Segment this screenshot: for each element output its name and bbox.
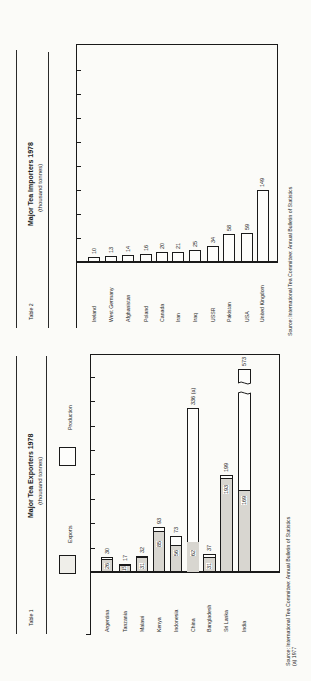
value-label: 16 <box>143 245 149 251</box>
export-value-label: 31 <box>206 563 212 569</box>
export-value-label: 62 <box>190 550 196 556</box>
export-value-label: 31 <box>139 563 145 569</box>
table1-source: Source: International Tea Committee: Ann… <box>285 517 291 666</box>
bar-afghanistan <box>122 255 134 262</box>
category-label: Bangladesh <box>206 605 212 632</box>
table2-header-rule-right <box>48 52 49 328</box>
table2-title: Major Tea Importers 1978 <box>27 142 34 226</box>
table2-header-rule-left <box>16 50 17 328</box>
value-label: 21 <box>175 243 181 249</box>
category-label: Pakistan <box>226 302 232 322</box>
table2-subtitle: (thousand tonnes) <box>37 164 43 212</box>
bar-china-exports <box>187 542 199 572</box>
table1-label: Table 1 <box>28 609 34 626</box>
category-label: West Germany <box>108 288 114 323</box>
table2-label: Table 2 <box>28 303 34 320</box>
table2-axis-left <box>76 44 77 328</box>
category-label: Poland <box>143 306 149 322</box>
category-label: Iran <box>175 313 181 322</box>
production-value-label: 32 <box>139 547 145 553</box>
category-label: United Kingdom <box>259 285 265 322</box>
value-label: 58 <box>226 225 232 231</box>
value-label: 34 <box>210 237 216 243</box>
table1-header-rule-right <box>46 356 47 634</box>
value-label: 149 <box>259 178 265 187</box>
table1-axis-left <box>90 354 91 635</box>
value-label: 13 <box>108 247 114 253</box>
category-label: Malawi <box>139 616 145 632</box>
production-value-label: 73 <box>173 527 179 533</box>
legend-exports-label: Exports <box>67 525 73 543</box>
bar-iraq <box>189 250 201 262</box>
production-value-label: 37 <box>206 545 212 551</box>
table1-header-rule-left <box>16 356 17 634</box>
bar-canada <box>156 252 168 262</box>
export-value-label: 193 <box>223 485 229 494</box>
category-label: Afghanistan <box>125 295 131 322</box>
table2-source: Source: International Tea Committee: Ann… <box>287 187 293 336</box>
value-label: 10 <box>91 248 97 254</box>
value-label: 20 <box>159 243 165 249</box>
category-label: Argentina <box>104 610 110 632</box>
production-value-label: 199 <box>223 463 229 472</box>
production-value-label: 30 <box>104 548 110 554</box>
export-value-label: 169 <box>241 496 247 505</box>
legend-production-swatch <box>59 447 76 466</box>
category-label: USA <box>244 311 250 322</box>
production-value-label: 93 <box>156 518 162 524</box>
table1-frame-right <box>279 354 280 573</box>
table1-frame-top <box>90 354 280 355</box>
category-label: Kenya <box>156 617 162 632</box>
export-value-label: 85 <box>156 541 162 547</box>
bar-kenya-exports <box>153 531 165 572</box>
bar-usa <box>241 233 253 262</box>
category-label: Sri Lanka <box>223 610 229 632</box>
bar-poland <box>140 254 152 262</box>
export-value-label: 26 <box>104 563 110 569</box>
production-value-label: 573 <box>241 357 247 366</box>
bar-iran <box>172 252 184 262</box>
table1-footnote: (a) 1977 <box>291 647 297 666</box>
category-label: China <box>190 618 196 632</box>
category-label: Ireland <box>91 306 97 322</box>
export-value-label: 15 <box>122 566 127 571</box>
production-value-label: 17 <box>122 555 128 561</box>
category-label: Tanzania <box>122 611 128 632</box>
value-label: 14 <box>125 246 131 252</box>
bar-ussr <box>207 246 219 262</box>
table2-frame-right <box>277 44 278 263</box>
table2-frame-top <box>76 44 278 45</box>
category-label: Indonesia <box>173 610 179 633</box>
category-label: Iraq <box>192 313 198 322</box>
legend-production-label: Production <box>67 405 73 430</box>
bar-ireland <box>88 257 100 262</box>
category-label: Canada <box>159 304 165 322</box>
table1-title: Major Tea Exporters 1978 <box>27 434 34 518</box>
category-label: USSR <box>210 308 216 322</box>
bar-united-kingdom <box>257 190 269 262</box>
bar-west-germany <box>105 256 117 262</box>
export-value-label: 56 <box>173 550 179 556</box>
category-label: India <box>241 621 247 632</box>
axis-break-icon <box>236 381 253 395</box>
value-label: 59 <box>244 224 250 230</box>
table1-axis-foot <box>86 634 91 635</box>
value-label: 25 <box>192 241 198 247</box>
production-value-label: 336 (a) <box>190 388 196 405</box>
table1-subtitle: (thousand tonnes) <box>37 457 43 505</box>
bar-pakistan <box>223 234 235 262</box>
legend-exports-swatch <box>59 555 76 574</box>
